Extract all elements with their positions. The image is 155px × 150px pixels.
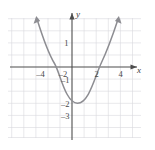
x-axis-label: x (136, 65, 141, 75)
y-tick-label-neg3: –3 (60, 111, 70, 121)
x-tick-label-neg4: –4 (35, 69, 45, 79)
y-axis-label: y (75, 9, 80, 19)
y-tick-label-pos1: 1 (64, 38, 68, 48)
coordinate-plane: –4 –2 2 4 1 –1 –2 –3 y x (0, 0, 155, 150)
x-tick-label-pos2: 2 (94, 69, 98, 79)
y-tick-label-neg2: –2 (60, 99, 70, 109)
y-tick-label-neg1: –1 (60, 75, 70, 85)
graph-figure: –4 –2 2 4 1 –1 –2 –3 y x (0, 0, 155, 150)
